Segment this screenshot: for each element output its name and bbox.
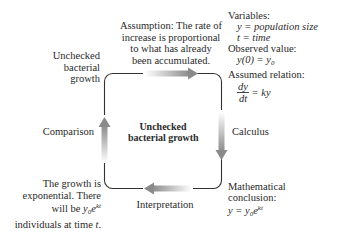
corner-mathematical-conclusion: Mathematical conclusion: y = y0ekt: [228, 181, 286, 220]
observed-value: y(0) = y0: [228, 54, 318, 69]
arrow-right-icon: [143, 68, 198, 80]
stage-assumption: Assumption: The rate of increase is prop…: [108, 20, 234, 66]
arrow-left-icon: [143, 183, 193, 195]
corner-interpretation-result: The growth is exponential. There will be…: [2, 178, 101, 230]
variable-y: y = population size: [228, 21, 318, 32]
arrow-down-icon: [216, 110, 228, 160]
stage-comparison: Comparison: [30, 126, 94, 138]
corner-unchecked-growth: Unchecked bacterial growth: [38, 50, 100, 85]
stage-interpretation: Interpretation: [128, 199, 202, 211]
corner-model-setup: Variables: y = population size t = time …: [228, 10, 318, 104]
conclusion-equation: y = y0ekt: [228, 203, 286, 220]
variable-t: t = time: [228, 32, 318, 43]
center-label: Unchecked bacterial growth: [128, 121, 198, 143]
assumed-heading: Assumed relation:: [228, 69, 318, 80]
observed-heading: Observed value:: [228, 43, 318, 54]
assumed-relation: dy dt = ky: [228, 81, 318, 104]
stage-calculus: Calculus: [232, 126, 269, 138]
derivative-fraction: dy dt: [237, 81, 249, 104]
arrow-up-icon: [99, 115, 111, 163]
variables-heading: Variables:: [228, 10, 318, 21]
